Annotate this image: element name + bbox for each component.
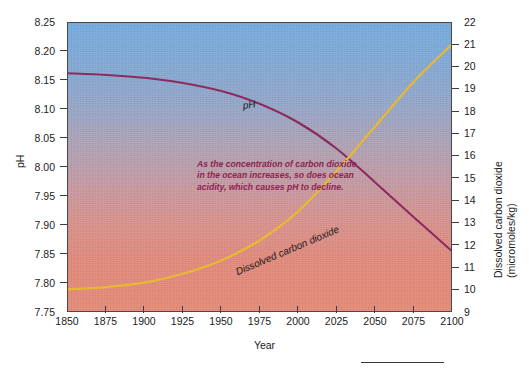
y-right-tick-21 xyxy=(452,44,459,45)
y-axis-right-title-line1: Dissolved carbon dioxide xyxy=(492,161,504,278)
y-left-tick-8.10 xyxy=(60,108,67,109)
y-right-tick-label-10: 10 xyxy=(464,284,476,295)
y-right-tick-16 xyxy=(452,155,459,156)
y-left-tick-8.15 xyxy=(60,79,67,80)
y-axis-right-title-line2: (micromoles/kg) xyxy=(505,161,518,278)
x-tick-label-2025: 2025 xyxy=(317,316,357,327)
x-tick-2050 xyxy=(374,306,375,313)
y-right-tick-12 xyxy=(452,244,459,245)
y-left-tick-7.95 xyxy=(60,195,67,196)
y-left-tick-label-7.80: 7.80 xyxy=(35,278,55,289)
ph-curve-label: pH xyxy=(242,98,256,111)
y-left-tick-label-8.25: 8.25 xyxy=(35,17,55,28)
y-left-tick-label-8.10: 8.10 xyxy=(35,104,55,115)
y-right-tick-label-11: 11 xyxy=(464,262,475,273)
y-right-tick-label-19: 19 xyxy=(464,83,476,94)
y-right-tick-11 xyxy=(452,267,459,268)
y-right-tick-19 xyxy=(452,88,459,89)
x-tick-1875 xyxy=(105,306,106,313)
footer-rule xyxy=(361,362,444,363)
plot-area: As the concentration of carbon dioxide i… xyxy=(67,22,452,312)
y-right-tick-label-21: 21 xyxy=(464,39,476,50)
y-right-tick-label-22: 22 xyxy=(464,17,476,28)
ocean-acidification-chart: As the concentration of carbon dioxide i… xyxy=(0,0,529,375)
x-tick-label-2075: 2075 xyxy=(394,316,434,327)
y-right-tick-18 xyxy=(452,111,459,112)
y-left-tick-label-8.20: 8.20 xyxy=(35,46,55,57)
y-axis-left-title: pH xyxy=(14,155,26,168)
x-tick-label-1875: 1875 xyxy=(86,316,126,327)
x-tick-label-1900: 1900 xyxy=(124,316,164,327)
y-left-tick-label-7.90: 7.90 xyxy=(35,220,55,231)
y-left-tick-label-8.05: 8.05 xyxy=(35,133,55,144)
y-right-tick-17 xyxy=(452,133,459,134)
x-tick-1925 xyxy=(182,306,183,313)
y-right-tick-label-14: 14 xyxy=(464,195,476,206)
x-tick-2025 xyxy=(336,306,337,313)
y-axis-right-title: Dissolved carbon dioxide (micromoles/kg) xyxy=(492,161,518,278)
y-left-tick-7.90 xyxy=(60,224,67,225)
y-left-tick-label-7.95: 7.95 xyxy=(35,191,55,202)
y-left-tick-8.05 xyxy=(60,137,67,138)
x-tick-label-1975: 1975 xyxy=(240,316,280,327)
x-tick-1900 xyxy=(143,306,144,313)
y-left-tick-8.00 xyxy=(60,166,67,167)
y-left-tick-7.85 xyxy=(60,253,67,254)
y-right-tick-label-17: 17 xyxy=(464,128,476,139)
y-right-tick-label-15: 15 xyxy=(464,173,476,184)
y-right-tick-label-12: 12 xyxy=(464,240,476,251)
y-left-tick-8.20 xyxy=(60,50,67,51)
x-tick-2000 xyxy=(297,306,298,313)
y-right-tick-10 xyxy=(452,289,459,290)
y-right-tick-14 xyxy=(452,200,459,201)
y-left-tick-label-8.00: 8.00 xyxy=(35,162,55,173)
y-left-tick-7.80 xyxy=(60,282,67,283)
x-tick-label-2050: 2050 xyxy=(355,316,395,327)
y-right-tick-label-13: 13 xyxy=(464,217,476,228)
chart-annotation-text: As the concentration of carbon dioxide i… xyxy=(197,159,357,193)
x-axis-title: Year xyxy=(0,339,529,351)
y-right-tick-20 xyxy=(452,66,459,67)
y-right-tick-label-20: 20 xyxy=(464,61,476,72)
x-tick-label-1950: 1950 xyxy=(201,316,241,327)
y-right-tick-15 xyxy=(452,177,459,178)
y-right-tick-13 xyxy=(452,222,459,223)
y-right-tick-label-16: 16 xyxy=(464,150,476,161)
x-tick-label-1925: 1925 xyxy=(163,316,203,327)
x-tick-label-2100: 2100 xyxy=(432,316,472,327)
x-tick-label-2000: 2000 xyxy=(278,316,318,327)
y-left-tick-label-8.15: 8.15 xyxy=(35,75,55,86)
x-tick-1975 xyxy=(259,306,260,313)
x-tick-2075 xyxy=(413,306,414,313)
y-left-tick-label-7.85: 7.85 xyxy=(35,249,55,260)
y-right-tick-label-18: 18 xyxy=(464,106,476,117)
x-tick-label-1850: 1850 xyxy=(47,316,87,327)
x-tick-1950 xyxy=(220,306,221,313)
